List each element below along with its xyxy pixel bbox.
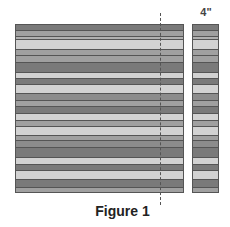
figure-caption: Figure 1 [0,203,230,219]
stripe-dark [193,180,218,188]
stripe-light [193,40,218,50]
stripe-light [16,158,183,165]
stripe-light [193,127,218,136]
strip-width-label: 4" [196,6,216,18]
stripe-medium [193,56,218,63]
stripe-light [193,114,218,121]
stripe-light [193,158,218,165]
stripe-medium [16,188,183,193]
stripe-light [16,40,183,50]
stripe-light [193,85,218,94]
stripe-medium [16,56,183,63]
striped-quilt-panel [15,24,184,193]
stripe-medium-dark [16,141,183,148]
stripe-light [16,127,183,136]
stripe-dark [16,180,183,188]
stripe-light [193,171,218,180]
stripe-dark [193,63,218,73]
stripe-light [16,85,183,94]
stripe-medium-dark [193,94,218,101]
stripe-dark [16,107,183,114]
stripe-dark [16,148,183,158]
cut-line [160,13,161,205]
stripe-medium [193,188,218,193]
stripe-medium-dark [193,141,218,148]
stripe-dark [193,148,218,158]
stripe-medium-dark [16,94,183,101]
stripe-light [16,114,183,121]
cut-strip-panel [192,24,219,193]
stripe-dark [16,63,183,73]
stripe-dark [193,107,218,114]
stripe-light [16,171,183,180]
